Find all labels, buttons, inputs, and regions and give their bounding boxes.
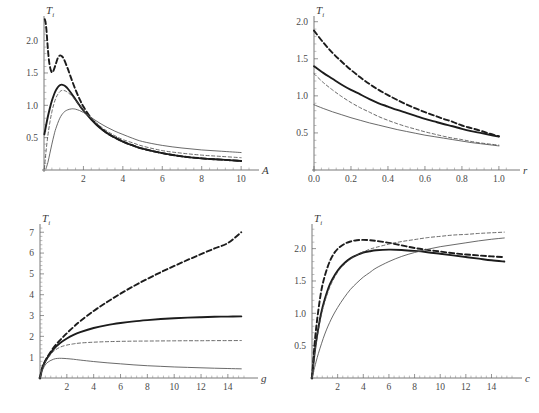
x-tick-label: 2	[64, 382, 69, 392]
data-curve-thick-dashed	[40, 232, 241, 378]
y-tick-label: 1.0	[294, 309, 306, 319]
y-tick-label: 5	[29, 269, 34, 279]
x-axis-label: r	[523, 164, 528, 176]
x-tick-label: 8	[412, 382, 417, 392]
data-curve-thin-solid	[40, 358, 241, 378]
curves-group	[40, 232, 241, 378]
x-tick-label: 6	[160, 174, 165, 184]
curves-group	[44, 19, 241, 168]
y-tick-label: 3	[29, 311, 34, 321]
figure-four-panel-plot: 2468100.51.01.52.0TiA0.00.20.40.60.81.00…	[0, 0, 539, 413]
y-tick-label: 2.0	[294, 244, 306, 254]
data-curve-thick-solid	[314, 66, 499, 136]
plot-panel-A: 2468100.51.01.52.0TiA	[0, 0, 270, 206]
x-tick-label: 14	[223, 382, 233, 392]
plot-panel-r: 0.00.20.40.60.81.00.51.01.52.0Tir	[270, 0, 539, 206]
y-tick-label: 4	[29, 290, 34, 300]
y-tick-label: 1.5	[26, 68, 38, 78]
data-curve-thick-dashed	[312, 240, 504, 378]
x-axis-label: g	[261, 372, 267, 384]
x-tick-label: 4	[91, 382, 96, 392]
data-curve-thin-solid	[314, 105, 499, 146]
y-tick-label: 6	[29, 248, 34, 258]
x-tick-label: 4	[120, 174, 125, 184]
y-tick-label: 2.0	[296, 17, 308, 27]
x-tick-label: 0.6	[419, 174, 431, 184]
y-tick-label: 0.5	[294, 341, 306, 351]
x-tick-label: 4	[361, 382, 366, 392]
x-tick-label: 0.2	[345, 174, 357, 184]
x-tick-label: 0.8	[456, 174, 468, 184]
plot-panel-c: 24681012140.51.01.52.0Tic	[270, 206, 539, 413]
y-tick-label: 1.5	[294, 276, 306, 286]
x-axis-label: A	[261, 164, 269, 176]
x-tick-label: 12	[196, 382, 206, 392]
x-axis-label: c	[525, 372, 530, 384]
y-axis-label: Ti	[316, 4, 324, 19]
x-tick-label: 6	[118, 382, 123, 392]
x-tick-label: 2	[335, 382, 340, 392]
y-axis-label: Ti	[314, 212, 322, 227]
x-tick-label: 10	[236, 174, 246, 184]
data-curve-thick-solid	[312, 250, 504, 378]
y-tick-label: 0.5	[296, 128, 308, 138]
data-curve-thick-dashed	[45, 19, 241, 161]
plot-panel-g: 24681012141234567Tig	[0, 206, 270, 413]
y-tick-label: 2.0	[26, 36, 38, 46]
x-tick-label: 0.0	[308, 174, 320, 184]
y-tick-label: 1.0	[26, 101, 38, 111]
y-tick-label: 0.5	[26, 133, 38, 143]
x-tick-label: 2	[81, 174, 86, 184]
y-tick-label: 7	[29, 228, 34, 238]
y-tick-label: 2	[29, 332, 34, 342]
y-tick-label: 1.5	[296, 54, 308, 64]
y-tick-label: 1.0	[296, 91, 308, 101]
x-tick-label: 14	[487, 382, 497, 392]
curves-group	[312, 232, 504, 378]
data-curve-thick-solid	[40, 316, 241, 378]
x-tick-label: 10	[435, 382, 445, 392]
data-curve-thin-dashed	[44, 90, 241, 168]
y-axis-label: Ti	[46, 4, 54, 19]
x-tick-label: 1.0	[493, 174, 505, 184]
data-curve-thick-solid	[44, 85, 241, 161]
curves-group	[314, 31, 499, 146]
y-axis-label: Ti	[42, 212, 50, 227]
x-tick-label: 0.4	[382, 174, 394, 184]
x-tick-label: 8	[145, 382, 150, 392]
x-tick-label: 8	[199, 174, 204, 184]
data-curve-thick-dashed	[314, 31, 499, 137]
y-tick-label: 1	[29, 353, 34, 363]
x-tick-label: 10	[169, 382, 179, 392]
x-tick-label: 12	[461, 382, 471, 392]
x-tick-label: 6	[387, 382, 392, 392]
